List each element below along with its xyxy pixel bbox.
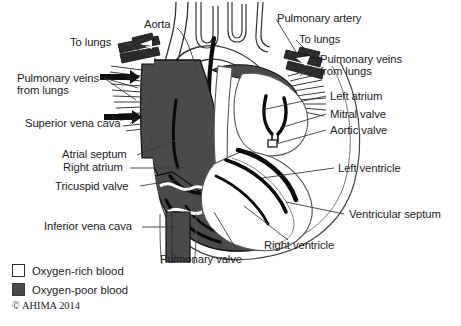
label-ventricular-septum: Ventricular septum [349,208,441,220]
label-pulmonary-artery: Pulmonary artery [277,12,361,24]
label-pulmonary-veins-left: Pulmonary veins from lungs [17,72,107,97]
label-aorta: Aorta [144,18,171,30]
label-pulmonary-valve: Pulmonary valve [160,253,242,265]
oxygen-rich-swatch-icon [12,264,25,277]
label-left-atrium: Left atrium [330,90,382,102]
label-pulmonary-veins-left-line1: Pulmonary veins [17,72,99,84]
label-pulmonary-veins-right: Pulmonary veins from lungs [320,53,430,78]
label-to-lungs-right: To lungs [299,33,340,45]
aortic-valve-marker [268,140,277,147]
label-tricuspid-valve: Tricuspid valve [55,180,128,192]
legend-item-oxygen-rich: Oxygen-rich blood [12,262,128,279]
label-aortic-valve: Aortic valve [330,124,387,136]
label-atrial-septum: Atrial septum [62,148,127,160]
label-to-lungs-left: To lungs [70,36,111,48]
label-right-ventricle: Right ventricle [264,239,334,251]
copyright-notice: © AHIMA 2014 [12,300,80,311]
label-pulmonary-veins-right-line1: Pulmonary veins [320,53,402,65]
label-mitral-valve: Mitral valve [330,108,386,120]
label-pulmonary-veins-left-line2: from lungs [17,84,69,96]
label-inferior-vena-cava: Inferior vena cava [44,220,132,232]
oxygen-poor-swatch-icon [12,283,25,296]
label-left-ventricle: Left ventricle [338,162,401,174]
legend-item-oxygen-poor: Oxygen-poor blood [12,281,128,298]
legend-label-oxygen-rich: Oxygen-rich blood [32,265,124,277]
legend-label-oxygen-poor: Oxygen-poor blood [32,284,128,296]
label-pulmonary-veins-right-line2: from lungs [320,65,372,77]
legend: Oxygen-rich blood Oxygen-poor blood [12,262,128,300]
label-superior-vena-cava: Superior vena cava [25,117,121,129]
label-right-atrium: Right atrium [63,161,123,173]
